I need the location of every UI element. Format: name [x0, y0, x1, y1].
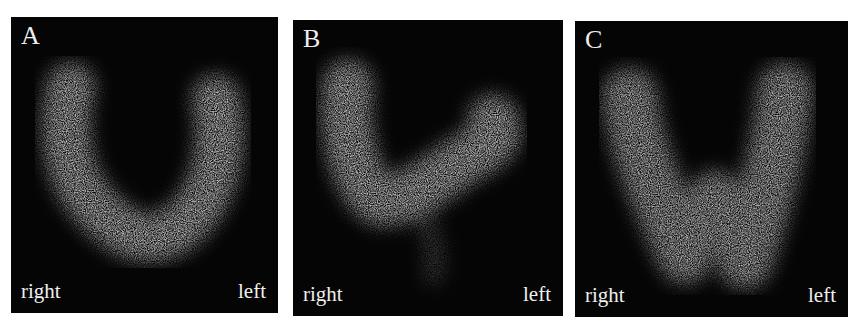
- scintigraphy-image-c: [575, 21, 848, 317]
- side-label-left: left: [238, 279, 266, 303]
- panel-a: A right left: [11, 17, 278, 313]
- side-label-left: left: [808, 283, 836, 307]
- panel-b: B right left: [293, 20, 563, 316]
- side-label-left: left: [523, 282, 551, 306]
- panel-label-b: B: [303, 24, 320, 54]
- side-label-right: right: [585, 283, 625, 307]
- panel-label-a: A: [21, 21, 40, 51]
- side-label-right: right: [21, 279, 61, 303]
- panel-label-c: C: [585, 25, 602, 55]
- panel-c: C right left: [575, 21, 848, 317]
- scintigraphy-image-a: [11, 17, 278, 313]
- side-label-right: right: [303, 282, 343, 306]
- scintigraphy-image-b: [293, 20, 563, 316]
